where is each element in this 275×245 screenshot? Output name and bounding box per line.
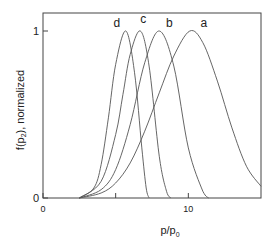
curves — [79, 31, 261, 198]
curve-label-d: d — [113, 16, 120, 30]
y-tick-label: 0 — [33, 192, 39, 204]
curve-label-a: a — [200, 16, 207, 30]
y-axis-ticks: 01 — [33, 25, 48, 204]
x-tick-label: 0 — [40, 204, 45, 214]
curve-labels: abcd — [113, 12, 207, 30]
curve-a — [79, 31, 261, 198]
y-tick-label: 1 — [33, 25, 39, 37]
x-axis-label: p/p0 — [160, 224, 179, 238]
curve-label-b: b — [166, 16, 173, 30]
x-axis-ticks: 010 — [40, 193, 193, 214]
figure: 01 010 abcd p/p0 f(p2), normalized — [0, 0, 275, 245]
curve-c — [79, 31, 171, 198]
line-chart: 01 010 abcd p/p0 f(p2), normalized — [0, 0, 275, 245]
x-tick-label: 10 — [183, 204, 193, 214]
curve-label-c: c — [140, 12, 146, 26]
y-axis-label: f(p2), normalized — [14, 70, 27, 150]
